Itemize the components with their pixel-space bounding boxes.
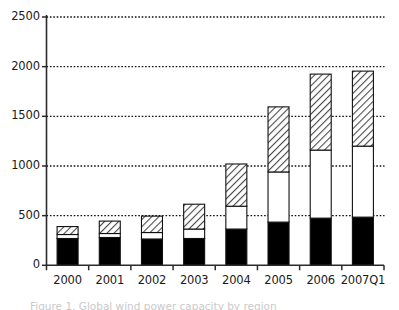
bar-segment-top-segment bbox=[57, 227, 78, 235]
bar-segment-bottom-segment bbox=[268, 222, 289, 265]
bar-segment-middle-segment bbox=[184, 229, 205, 238]
y-axis-tick-label: 2500 bbox=[0, 11, 40, 22]
bar-segment-middle-segment bbox=[352, 146, 373, 217]
bar-segment-bottom-segment bbox=[310, 218, 331, 265]
bar-segment-middle-segment bbox=[99, 234, 120, 238]
bar-segment-top-segment bbox=[268, 107, 289, 172]
bar-segment-middle-segment bbox=[57, 235, 78, 239]
y-axis-tick-label: 2000 bbox=[0, 61, 40, 72]
gridlines bbox=[47, 17, 385, 216]
ticks-group bbox=[42, 17, 384, 270]
bar-chart-plot bbox=[0, 0, 399, 310]
bar-segment-top-segment bbox=[310, 74, 331, 150]
x-axis-tick-label: 2007Q1 bbox=[333, 275, 393, 286]
bar-segment-middle-segment bbox=[310, 150, 331, 218]
bar-segment-middle-segment bbox=[141, 233, 162, 239]
bar-2006 bbox=[310, 74, 331, 265]
bar-2004 bbox=[226, 164, 247, 265]
y-axis-tick-label: 1000 bbox=[0, 160, 40, 171]
bar-segment-bottom-segment bbox=[226, 229, 247, 265]
bar-segment-top-segment bbox=[352, 71, 373, 146]
bar-segment-top-segment bbox=[99, 221, 120, 233]
bar-2000 bbox=[57, 227, 78, 266]
bar-2001 bbox=[99, 221, 120, 265]
bar-segment-top-segment bbox=[141, 216, 162, 232]
bar-2003 bbox=[184, 204, 205, 265]
bar-2002 bbox=[141, 216, 162, 265]
y-axis-tick-label: 1500 bbox=[0, 110, 40, 121]
bar-2007Q1 bbox=[352, 71, 373, 265]
bar-segment-top-segment bbox=[226, 164, 247, 206]
bar-segment-bottom-segment bbox=[352, 217, 373, 265]
bar-segment-bottom-segment bbox=[141, 239, 162, 265]
y-axis-tick-label: 0 bbox=[0, 259, 40, 270]
bars-group bbox=[57, 71, 373, 265]
chart-figure: 05001000150020002500 2000200120022003200… bbox=[0, 0, 399, 310]
bar-segment-top-segment bbox=[184, 204, 205, 229]
bar-segment-bottom-segment bbox=[184, 238, 205, 265]
figure-caption: Figure 1. Global wind power capacity by … bbox=[30, 300, 390, 310]
y-axis-tick-label: 500 bbox=[0, 210, 40, 221]
bar-segment-bottom-segment bbox=[99, 237, 120, 265]
bar-segment-middle-segment bbox=[268, 172, 289, 222]
bar-segment-bottom-segment bbox=[57, 238, 78, 265]
bar-2005 bbox=[268, 107, 289, 265]
axes-group bbox=[46, 15, 384, 266]
bar-segment-middle-segment bbox=[226, 206, 247, 229]
